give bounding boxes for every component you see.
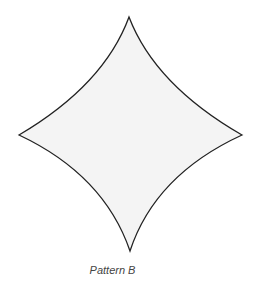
figure-caption: Pattern B (0, 264, 225, 276)
pattern-b-shape (0, 0, 253, 287)
